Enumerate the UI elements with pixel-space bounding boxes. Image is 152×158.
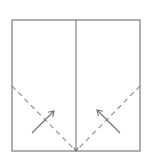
- right-valley-fold: [76, 86, 140, 151]
- diagram-canvas: [0, 0, 152, 158]
- left-fold-arrow-icon: [32, 111, 54, 133]
- left-valley-fold: [12, 86, 76, 151]
- right-fold-arrow-icon: [97, 110, 120, 133]
- origami-diagram: [0, 0, 152, 158]
